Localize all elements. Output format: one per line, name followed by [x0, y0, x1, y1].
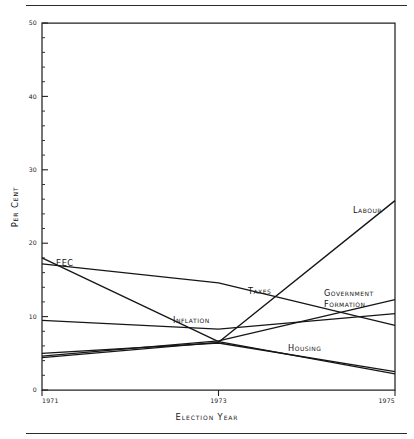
y-tick-labels: 0 10 20 30 40 50 — [29, 19, 37, 393]
x-tick-label-1973: 1973 — [210, 397, 227, 404]
y-tick-label-0: 0 — [33, 386, 37, 393]
top-horizontal-rule — [26, 5, 407, 6]
x-axis-ticks — [42, 390, 395, 396]
x-tick-label-1975: 1975 — [378, 397, 395, 404]
series-labels: EEC Taxes Inflation Government Formation… — [56, 205, 382, 353]
y-tick-label-30: 30 — [29, 166, 37, 173]
x-tick-label-1971: 1971 — [42, 397, 59, 404]
x-tick-labels: 1971 1973 1975 — [42, 397, 395, 404]
y-tick-label-20: 20 — [29, 239, 37, 246]
series-line-inflation — [42, 314, 395, 329]
series-line-eec — [42, 258, 395, 374]
series-line-housing — [42, 343, 395, 372]
plot-frame — [42, 23, 395, 390]
series-label-eec: EEC — [56, 258, 74, 268]
y-tick-label-40: 40 — [29, 93, 37, 100]
series-label-labour: Labour — [353, 205, 382, 215]
y-axis-ticks — [42, 23, 48, 390]
y-tick-label-50: 50 — [29, 19, 37, 26]
series-label-taxes: Taxes — [247, 286, 271, 296]
y-axis-title: Per Cent — [10, 187, 20, 228]
series-label-government-formation-line2: Formation — [324, 299, 366, 309]
series-label-inflation: Inflation — [173, 315, 210, 325]
series-label-government-formation: Government — [324, 288, 374, 298]
line-chart-svg: 0 10 20 30 40 50 1971 1973 1975 Election… — [0, 0, 414, 439]
series-line-labour — [42, 201, 395, 358]
series-label-housing: Housing — [288, 343, 322, 353]
y-tick-label-10: 10 — [29, 313, 37, 320]
chart-figure: 0 10 20 30 40 50 1971 1973 1975 Election… — [0, 0, 414, 439]
x-axis-title: Election Year — [176, 412, 239, 422]
bottom-horizontal-rule — [26, 433, 407, 434]
